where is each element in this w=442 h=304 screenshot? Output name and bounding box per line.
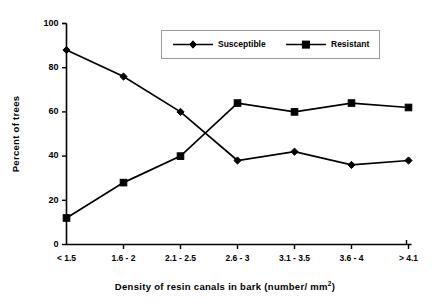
x-tick-label: 2.6 - 3 xyxy=(225,253,249,263)
chart-legend: Susceptible Resistant xyxy=(162,31,380,59)
data-point-marker xyxy=(291,109,298,116)
y-tick-label: 100 xyxy=(43,18,58,28)
y-tick-label: 80 xyxy=(48,62,58,72)
y-tick-label: 20 xyxy=(48,195,58,205)
x-axis-title-main: Density of resin canals in bark (number/… xyxy=(115,281,328,292)
line-chart: 020406080100 < 1.51.6 - 22.1 - 2.52.6 - … xyxy=(0,0,442,304)
svg-text:Density of resin canals in bar: Density of resin canals in bark (number/… xyxy=(115,280,335,292)
x-axis-title-tail: ) xyxy=(332,281,335,292)
data-point-marker xyxy=(177,153,184,160)
chart-container: 020406080100 < 1.51.6 - 22.1 - 2.52.6 - … xyxy=(0,0,442,304)
legend-label-susceptible: Susceptible xyxy=(218,39,266,49)
y-tick-label: 0 xyxy=(53,239,58,249)
legend-label-resistant: Resistant xyxy=(331,39,369,49)
y-tick-label: 60 xyxy=(48,106,58,116)
x-tick-label: 2.1 - 2.5 xyxy=(165,253,196,263)
legend-marker-square-icon xyxy=(302,41,309,48)
x-tick-label: < 1.5 xyxy=(57,253,76,263)
x-tick-label: 3.1 - 3.5 xyxy=(279,253,310,263)
x-tick-label: > 4.1 xyxy=(399,253,418,263)
data-point-marker xyxy=(234,100,241,107)
y-tick-label: 40 xyxy=(48,150,58,160)
y-axis-title: Percent of trees xyxy=(10,96,21,173)
x-tick-label: 1.6 - 2 xyxy=(111,253,135,263)
x-tick-label: 3.6 - 4 xyxy=(339,253,363,263)
data-point-marker xyxy=(348,100,355,107)
data-point-marker xyxy=(405,104,412,111)
x-axis-title: Density of resin canals in bark (number/… xyxy=(115,280,335,292)
data-point-marker xyxy=(120,179,127,186)
data-point-marker xyxy=(63,215,70,222)
